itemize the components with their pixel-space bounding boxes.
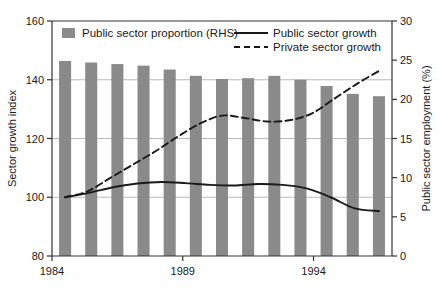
- y-tick-label-left: 80: [32, 250, 44, 262]
- y-tick-label-right: 10: [400, 172, 412, 184]
- legend-label-public-growth: Public sector growth: [273, 27, 377, 39]
- y-tick-label-left: 140: [26, 74, 44, 86]
- x-tick-label: 1994: [301, 265, 325, 277]
- sector-growth-chart: 80100120140160051015202530198419891994Se…: [0, 0, 441, 288]
- bar: [216, 79, 228, 256]
- x-tick-label: 1989: [171, 265, 195, 277]
- bar: [111, 64, 123, 256]
- y-tick-label-right: 30: [400, 15, 412, 27]
- bar: [59, 61, 71, 256]
- y-tick-label-right: 25: [400, 54, 412, 66]
- y-tick-label-right: 15: [400, 133, 412, 145]
- bar: [347, 94, 359, 256]
- y-tick-label-right: 0: [400, 250, 406, 262]
- bar: [164, 70, 176, 256]
- y-tick-label-right: 20: [400, 93, 412, 105]
- bar: [294, 80, 306, 256]
- y-axis-title-right: Public sector employment (%): [420, 65, 432, 211]
- y-tick-label-left: 120: [26, 133, 44, 145]
- bar: [268, 76, 280, 256]
- y-tick-label-right: 5: [400, 211, 406, 223]
- y-tick-label-left: 160: [26, 15, 44, 27]
- chart-container: 80100120140160051015202530198419891994Se…: [0, 0, 441, 288]
- x-tick-label: 1984: [40, 265, 64, 277]
- legend-label-public-proportion: Public sector proportion (RHS): [82, 27, 238, 39]
- legend-swatch-public-proportion: [62, 28, 75, 38]
- bar: [190, 76, 202, 256]
- y-tick-label-left: 100: [26, 191, 44, 203]
- legend-label-private-growth: Private sector growth: [273, 41, 381, 53]
- bar: [85, 63, 97, 256]
- bar: [373, 96, 385, 256]
- bar: [321, 86, 333, 256]
- bar: [242, 78, 254, 256]
- y-axis-title-left: Sector growth index: [6, 89, 18, 187]
